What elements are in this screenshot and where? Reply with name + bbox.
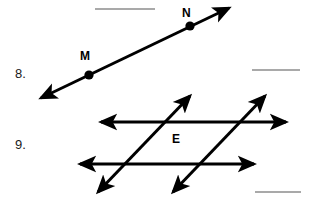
point-n-dot bbox=[185, 21, 194, 30]
transversal-right bbox=[173, 96, 265, 192]
worksheet-page: 8. 9. M N E bbox=[0, 0, 316, 198]
plane-label-e: E bbox=[172, 133, 180, 145]
point-label-m: M bbox=[80, 50, 90, 62]
figure-q8-line-mn bbox=[41, 8, 229, 98]
geometry-figures-canvas bbox=[0, 0, 316, 198]
question-number-9: 9. bbox=[15, 138, 26, 151]
point-m-dot bbox=[84, 70, 93, 79]
point-label-n: N bbox=[182, 7, 191, 19]
figure-q9-parallel-lines bbox=[80, 96, 286, 192]
line-mn bbox=[41, 8, 229, 98]
question-number-8: 8. bbox=[15, 67, 26, 80]
